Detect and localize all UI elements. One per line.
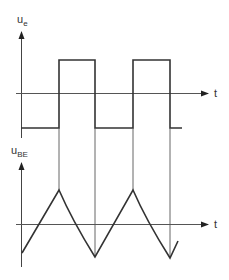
ue-t-label: t xyxy=(214,87,217,99)
top-plot: ue t xyxy=(16,13,217,138)
guide-lines xyxy=(59,128,170,258)
ube-t-label: t xyxy=(214,218,217,230)
waveform-diagram: ue t uBE t xyxy=(0,0,229,280)
ube-y-label: uBE xyxy=(11,144,28,159)
ue-y-label: ue xyxy=(17,13,28,28)
bottom-plot: uBE t xyxy=(11,144,217,267)
